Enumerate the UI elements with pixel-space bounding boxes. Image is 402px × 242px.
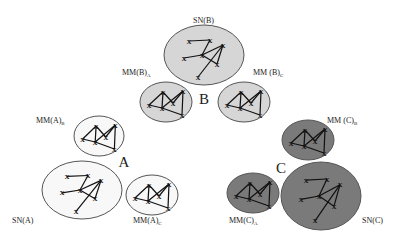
graph-node: X [258,88,263,96]
graph-node: X [160,89,165,97]
graph-node: X [302,127,307,135]
ellipse-mm-c-b: XXXXXX [282,120,334,160]
graph-node: X [180,88,185,96]
graph-node: X [303,177,308,185]
graph-node: X [179,112,184,120]
graph-node: X [199,52,204,60]
graph-node: X [132,195,137,203]
graph-node: X [165,205,170,213]
graph-node: X [59,189,64,197]
graph-node: X [246,196,251,204]
ellipse-mm-a-b: XXXXXX [74,116,124,156]
ellipses-layer: XXXXXXXXXXXXXXXXXXXXXXXXXXXXXXXXXXXXXXXX… [42,25,361,230]
ellipse-label: MM(A)B [36,116,65,126]
graph-node: X [324,176,329,184]
ellipse-mm-b-c: XXXXXX [218,82,270,122]
group-label-c: C [276,160,286,176]
graph-node: X [248,100,253,108]
ellipse-sn-c: XXXXXXX [281,162,361,230]
graph-node: X [98,177,103,185]
group-label-b: B [199,91,209,107]
ellipse-mm-a-c: XXXXXX [126,175,178,215]
graph-node: X [64,173,69,181]
graph-node: X [301,143,306,151]
graph-node: X [145,198,150,206]
ellipse-label: MM(B)A [122,68,151,78]
graph-node: X [73,208,78,216]
ellipse-mm-b-a: XXXXXX [140,82,192,122]
graph-node: X [298,196,303,204]
graph-node: X [146,102,151,110]
graph-node: X [112,146,117,154]
ellipse-label: MM(A)C [133,216,162,226]
network-diagram: XXXXXXXXXXXXXXXXXXXXXXXXXXXXXXXXXXXXXXXX… [0,0,402,242]
graph-node: X [181,55,186,63]
graph-node: X [247,180,252,188]
graph-node: X [85,172,90,180]
group-label-a: A [119,154,130,170]
ellipse-mm-c-a: XXXXXX [227,173,279,213]
ellipse-label: SN(C) [362,216,383,225]
graph-node: X [80,136,85,144]
ellipse-label: MM(C)A [229,216,258,226]
graph-node: X [77,187,82,195]
graph-node: X [316,193,321,201]
ellipse-sn-a: XXXXXXX [42,161,122,219]
graph-node: X [257,191,262,199]
graph-node: X [322,126,327,134]
ellipse-label: MM (C)B [327,116,358,126]
graph-node: X [288,140,293,148]
graph-node: X [267,179,272,187]
graph-node: X [233,193,238,201]
graph-node: X [159,105,164,113]
graph-node: X [257,112,262,120]
graph-node: X [170,100,175,108]
graph-node: X [156,193,161,201]
ellipse-label: SN(A) [12,216,34,225]
graph-node: X [103,134,108,142]
ellipse-label: MM (B)C [253,68,284,78]
graph-node: X [220,42,225,50]
graph-node: X [92,195,97,203]
graph-node: X [321,150,326,158]
graph-node: X [214,61,219,69]
graph-node: X [237,105,242,113]
graph-node: X [312,138,317,146]
graph-node: X [266,203,271,211]
graph-node: X [224,102,229,110]
ellipse-label: SN(B) [193,16,214,25]
graph-node: X [166,181,171,189]
graph-node: X [195,74,200,82]
graph-node: X [186,38,191,46]
graph-node: X [238,89,243,97]
graph-node: X [93,139,98,147]
graph-node: X [331,203,336,211]
graph-node: X [207,37,212,45]
graph-node: X [312,217,317,225]
graph-node: X [94,123,99,131]
graph-node: X [146,182,151,190]
graph-node: X [337,181,342,189]
graph-node: X [113,122,118,130]
ellipse-sn-b: XXXXXXX [164,25,244,85]
